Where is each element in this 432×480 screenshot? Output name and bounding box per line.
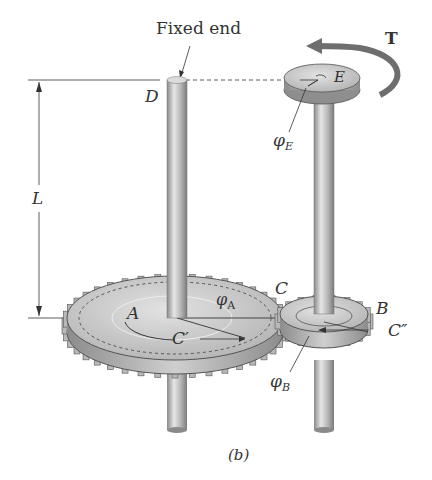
disk-E [284, 64, 360, 104]
point-E-label: E [334, 70, 345, 85]
point-D-label: D [145, 88, 159, 105]
torque-label: T [385, 30, 398, 47]
shaft-B [314, 96, 334, 314]
point-C-prime-label: C′ [172, 330, 189, 347]
point-C-double-prime-label: C″ [388, 322, 407, 339]
shaft-A-lower [167, 370, 187, 430]
torsion-gear-diagram: Fixed end T D E L φE φA φB A B C C′ C″ (… [0, 0, 432, 480]
shaft-B-lower [314, 360, 334, 430]
gear-A-label: A [127, 305, 139, 322]
length-L-label: L [32, 190, 43, 207]
shaft-A [167, 80, 187, 318]
gear-B-label: B [376, 300, 389, 317]
figure-caption: (b) [228, 448, 249, 463]
phi-E-label: φE [273, 132, 293, 149]
fixed-end-label: Fixed end [156, 20, 241, 37]
phi-A-label: φA [216, 292, 235, 308]
diagram-graphics [0, 0, 432, 480]
point-C-label: C [275, 280, 288, 297]
phi-B-label: φB [270, 373, 290, 390]
